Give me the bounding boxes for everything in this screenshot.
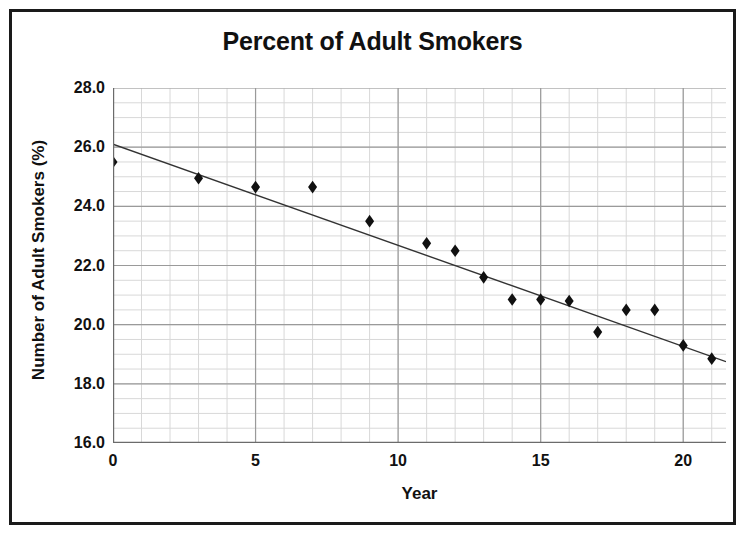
y-tick-label: 16.0: [45, 434, 105, 452]
chart-title: Percent of Adult Smokers: [0, 27, 745, 56]
y-tick-label: 24.0: [45, 197, 105, 215]
y-tick-label: 22.0: [45, 257, 105, 275]
x-tick-label: 15: [521, 452, 561, 470]
major-gridlines: [113, 88, 726, 443]
y-axis-tick-labels: 16.018.020.022.024.026.028.0: [33, 88, 105, 443]
plot-area: [113, 88, 726, 443]
x-tick-label: 10: [378, 452, 418, 470]
y-tick-label: 18.0: [45, 375, 105, 393]
y-tick-label: 26.0: [45, 138, 105, 156]
y-tick-label: 20.0: [45, 316, 105, 334]
x-axis-title: Year: [113, 484, 726, 504]
y-tick-label: 28.0: [45, 79, 105, 97]
x-tick-label: 0: [93, 452, 133, 470]
x-axis-tick-labels: 05101520: [113, 452, 726, 478]
chart-figure: Percent of Adult Smokers Number of Adult…: [0, 0, 745, 534]
plot-svg: [113, 88, 726, 443]
x-tick-label: 20: [663, 452, 703, 470]
x-tick-label: 5: [236, 452, 276, 470]
